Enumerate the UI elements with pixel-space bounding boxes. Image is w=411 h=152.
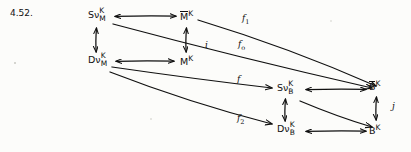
arrow-svkm-to-mbark — [115, 16, 176, 17]
arrow-svkm-to-dvkm — [96, 28, 97, 52]
arrow-svkb-to-bbark — [306, 89, 366, 90]
edge-label-f0: fo — [238, 40, 245, 51]
node-dvkb-scripts: KB — [290, 124, 297, 134]
node-dvkm-subscript: M — [101, 60, 107, 68]
node-dvkm-base: Dν — [88, 54, 101, 65]
node-bbark-base: B — [369, 82, 376, 92]
arrow-diagonal-f2 — [110, 72, 272, 124]
node-bk: BK — [369, 124, 380, 136]
edge-label-j-text: j — [392, 101, 395, 111]
node-dvkb-superscript: K — [290, 121, 295, 129]
edge-label-f1-subscript: 1 — [245, 18, 249, 26]
node-mbark-superscript: K — [188, 9, 193, 18]
node-svkb-subscript: B — [288, 88, 293, 96]
node-bbark: BK — [369, 80, 380, 92]
edge-label-f-text: f — [237, 74, 240, 84]
node-mk-base: M — [180, 56, 188, 67]
arrow-dvkb-to-bk — [306, 131, 366, 132]
node-dvkb: DνKB — [277, 124, 297, 134]
node-dvkb-subscript: B — [290, 129, 295, 137]
node-svkb-base: Sν — [277, 82, 288, 93]
arrow-mbark-to-mk-labeled-i — [186, 28, 187, 52]
node-svkm-subscript: M — [99, 15, 105, 23]
node-dvkm: DνKM — [88, 55, 108, 65]
node-dvkm-superscript: K — [101, 52, 106, 60]
node-svkb-scripts: KB — [288, 83, 295, 93]
edge-label-f0-subscript: o — [241, 44, 245, 52]
node-svkb: SνKB — [277, 83, 295, 93]
edge-label-i-text: i — [205, 40, 208, 50]
arrow-svkb-to-dvkb — [285, 99, 286, 121]
arrow-diagonal-svkb-to-bk — [300, 101, 372, 127]
node-mk: MK — [180, 55, 193, 67]
node-bbark-superscript: K — [376, 79, 381, 88]
node-svkm-superscript: K — [99, 7, 104, 15]
figure-canvas: 4.52. — [0, 0, 411, 152]
node-svkm-base: Sν — [88, 9, 99, 20]
node-svkm-scripts: KM — [99, 10, 106, 20]
node-dvkb-base: Dν — [277, 123, 290, 134]
edge-label-f: f — [237, 75, 240, 84]
diagram-arrows — [0, 0, 411, 152]
node-dvkm-scripts: KM — [101, 55, 108, 65]
node-mk-superscript: K — [188, 54, 193, 63]
arrow-diagonal-f — [112, 67, 272, 88]
node-mbark: MK — [180, 10, 193, 22]
edge-label-f1: f1 — [242, 14, 249, 25]
arrow-bbark-to-bk-labeled-j — [376, 97, 377, 120]
edge-label-i: i — [205, 41, 208, 50]
edge-label-f2: f2 — [237, 114, 244, 125]
edge-label-j: j — [392, 102, 395, 111]
node-svkb-superscript: K — [288, 80, 293, 88]
node-bk-superscript: K — [376, 123, 381, 132]
edge-label-f2-subscript: 2 — [240, 118, 244, 126]
node-mbark-base: M — [180, 12, 188, 22]
node-svkm: SνKM — [88, 10, 106, 20]
